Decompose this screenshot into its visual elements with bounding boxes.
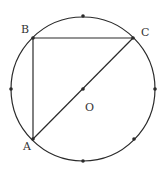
point-label-a: A [22,140,32,153]
circle-mark-dot [153,87,157,91]
point-b-dot [31,36,35,40]
circle-mark-dot [81,14,85,18]
point-label-c: C [141,26,149,39]
circle-mark-dot [132,137,136,141]
circle-mark-dot [81,159,85,163]
circle-diagram: ABCO [0,0,168,171]
point-c-dot [131,36,135,40]
point-labels: ABCO [21,23,149,153]
circle-mark-dot [9,87,13,91]
point-a-dot [31,137,35,141]
point-label-b: B [21,23,29,36]
point-o-dot [81,87,85,91]
point-label-o: O [85,101,94,114]
